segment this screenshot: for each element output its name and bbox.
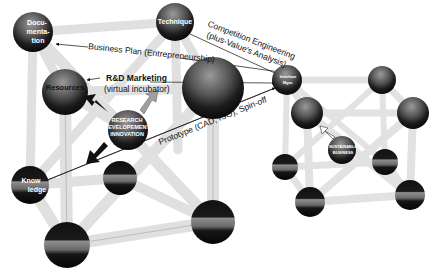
label-technique: Technique — [158, 18, 193, 26]
annotation-virtual-incubator: (virtual incubator) — [104, 84, 170, 94]
sphere-bottom-left — [44, 222, 90, 268]
label-interface-1: Interface — [280, 74, 297, 79]
label-innovation: INNOVATION — [110, 131, 144, 137]
sphere-right-back-low-left — [272, 154, 298, 180]
sphere-technique[interactable]: Technique — [156, 3, 194, 41]
label-business: BUSINESS — [333, 150, 354, 155]
sphere-right-back-low-right — [372, 149, 398, 175]
lattice-diagram: Technique Docu- menta- tion Resources Kn… — [0, 0, 441, 273]
sphere-right-bottom-right — [395, 180, 425, 210]
label-interface-2: Mgm. — [283, 80, 293, 85]
label-resources: Resources — [46, 83, 84, 92]
sphere-documentation[interactable]: Docu- menta- tion — [13, 12, 53, 52]
label-documentation-3: tion — [32, 37, 45, 44]
sphere-resources[interactable]: Resources — [42, 69, 88, 115]
sphere-right-back-top-right — [368, 66, 396, 94]
label-knowledge-2: ledge — [28, 186, 46, 194]
sphere-knowledge[interactable]: Know ledge — [11, 166, 49, 204]
sphere-back-mid — [103, 161, 137, 195]
sphere-right-bottom-left — [295, 187, 325, 217]
label-knowledge-1: Know — [21, 177, 41, 184]
label-documentation-2: menta- — [27, 28, 51, 35]
sphere-right-front-top-right — [397, 97, 429, 129]
sphere-bottom-right — [191, 200, 235, 244]
label-sustainable: SUSTAINABLE — [329, 144, 357, 149]
label-development: DEVELOPEMENT — [104, 124, 150, 130]
annotation-rd-marketing: R&D Marketing — [106, 73, 167, 83]
label-research: RESEARCH — [112, 117, 143, 123]
arrow-down-left-icon — [86, 142, 108, 164]
sphere-interface-mgm[interactable]: Interface Mgm. — [272, 65, 302, 95]
sphere-right-front-top-left — [291, 97, 323, 129]
label-documentation-1: Docu- — [27, 19, 48, 26]
